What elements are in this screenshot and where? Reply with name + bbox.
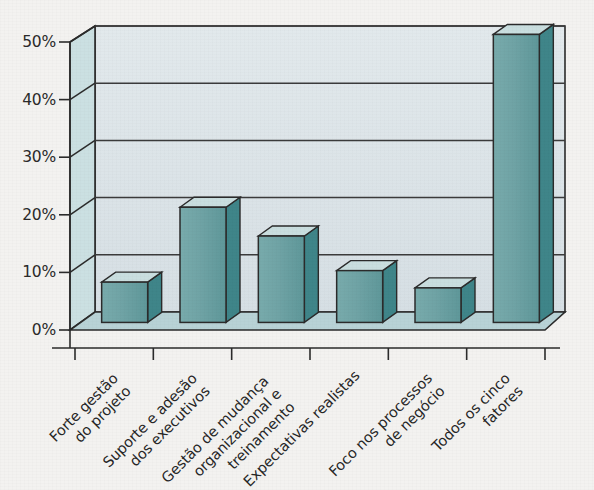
- y-axis-tick-label: 10%: [4, 263, 56, 281]
- y-axis-ticks: [59, 42, 70, 330]
- y-axis-tick-label: 50%: [4, 33, 56, 51]
- bar-4: [337, 261, 397, 323]
- plot-left-wall: [70, 26, 95, 330]
- x-axis-ticks: [75, 348, 545, 360]
- plot-area: [0, 0, 594, 490]
- bar-5: [415, 278, 475, 323]
- y-axis-tick-label: 40%: [4, 91, 56, 109]
- y-axis-tick-label: 20%: [4, 206, 56, 224]
- y-axis-tick-label: 30%: [4, 148, 56, 166]
- bar-6: [493, 24, 553, 322]
- y-axis-tick-labels: 0%10%20%30%40%50%: [0, 0, 56, 490]
- bar-2: [180, 197, 240, 322]
- y-axis-tick-label: 0%: [4, 321, 56, 339]
- bar-3: [258, 226, 318, 322]
- bar-1: [102, 272, 162, 322]
- bar-chart: 0%10%20%30%40%50% Forte gestãodo projeto…: [0, 0, 594, 490]
